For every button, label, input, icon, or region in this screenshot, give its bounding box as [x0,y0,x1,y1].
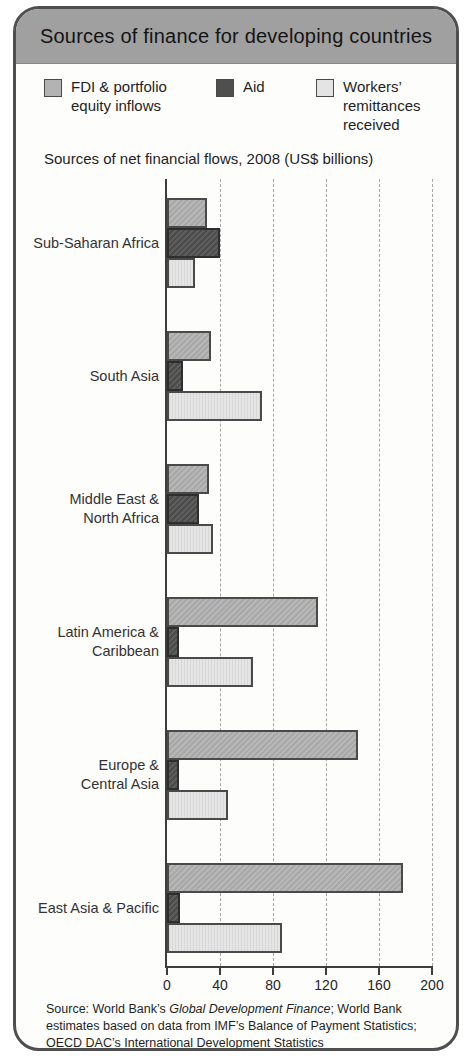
x-tick-label: 40 [212,977,228,993]
bar-chart: Sub-Saharan AfricaSouth AsiaMiddle East … [16,179,456,995]
source-text-italic: Global Development Finance [169,1002,330,1016]
bar-series0-group1 [167,331,211,361]
bar-series2-group4 [167,790,228,820]
x-tick-label: 0 [163,977,171,993]
bar-series0-group4 [167,730,358,760]
x-axis-tick [378,968,380,975]
legend-label-aid: Aid [243,78,265,134]
bar-series2-group2 [167,524,213,554]
gridline-160 [379,179,380,966]
legend-label-fdi: FDI & portfolio equity inflows [71,78,189,134]
x-axis-tick [219,968,221,975]
bar-series1-group0 [167,228,220,258]
chart-title: Sources of finance for developing countr… [40,25,432,48]
legend: FDI & portfolio equity inflows Aid Worke… [44,78,448,134]
bar-series2-group5 [167,923,282,953]
source-note: Source: World Bank’s Global Development … [46,1001,438,1051]
legend-swatch-aid-icon [216,79,234,97]
x-axis-tick [325,968,327,975]
source-text-prefix: Source: World Bank’s [46,1002,169,1016]
chart-header: Sources of finance for developing countr… [16,9,456,64]
gridline-120 [326,179,327,966]
category-label: Latin America &Caribbean [19,624,159,661]
chart-subtitle: Sources of net financial flows, 2008 (US… [44,150,446,167]
legend-item-remittances: Workers’ remittances received [316,78,448,134]
legend-item-aid: Aid [216,78,316,134]
bar-series1-group4 [167,760,179,790]
category-label: Middle East &North Africa [19,491,159,528]
category-labels: Sub-Saharan AfricaSouth AsiaMiddle East … [16,179,167,966]
x-tick-label: 200 [420,977,443,993]
x-tick-label: 160 [367,977,390,993]
x-axis-tick [166,968,168,975]
gridline-200 [432,179,433,966]
x-axis-tick [272,968,274,975]
bar-series0-group5 [167,863,403,893]
bar-series0-group0 [167,198,207,228]
bar-series0-group2 [167,464,209,494]
bar-series1-group1 [167,361,183,391]
chart-card: Sources of finance for developing countr… [13,6,459,1051]
x-tick-label: 80 [265,977,281,993]
gridline-40 [220,179,221,966]
category-label: Europe &Central Asia [19,757,159,794]
legend-swatch-remittances-icon [316,79,334,97]
category-label: Sub-Saharan Africa [19,234,159,253]
legend-item-fdi: FDI & portfolio equity inflows [44,78,216,134]
x-axis-tick [431,968,433,975]
gridline-80 [273,179,274,966]
bar-series0-group3 [167,597,318,627]
category-label: East Asia & Pacific [19,899,159,918]
legend-swatch-fdi-icon [44,79,62,97]
bar-series1-group5 [167,893,180,923]
bar-series2-group3 [167,657,253,687]
y-axis-line [165,179,167,966]
x-axis-line [165,966,433,968]
legend-label-remittances: Workers’ remittances received [343,78,438,134]
bar-series2-group1 [167,391,262,421]
x-tick-label: 120 [314,977,337,993]
bar-series1-group2 [167,494,199,524]
plot-area: 04080120160200 [167,179,432,966]
category-label: South Asia [19,367,159,386]
bar-series2-group0 [167,258,195,288]
bar-series1-group3 [167,627,179,657]
